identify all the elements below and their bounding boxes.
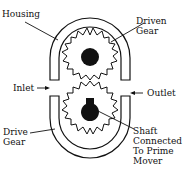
label-shaft-1: Shaft: [133, 126, 157, 136]
label-outlet: Outlet: [147, 88, 176, 98]
label-inlet: Inlet: [13, 83, 34, 93]
label-shaft-3: To Prime: [133, 146, 174, 156]
label-shaft-4: Mover: [133, 156, 162, 166]
label-drive-gear-2: Gear: [3, 137, 25, 147]
driven-gear: [62, 28, 118, 80]
label-shaft-2: Connected: [133, 136, 182, 146]
label-driven-gear-2: Gear: [136, 26, 158, 36]
drive-gear: [62, 81, 118, 134]
label-housing: Housing: [2, 9, 40, 19]
driven-shaft-icon: [81, 48, 99, 66]
label-drive-gear-1: Drive: [3, 127, 28, 137]
label-driven-gear-1: Driven: [136, 16, 167, 26]
